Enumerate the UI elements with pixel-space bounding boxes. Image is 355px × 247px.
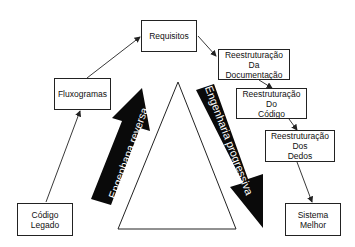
node-sistema-melhor: Sistema Melhor bbox=[285, 203, 341, 236]
node-reest-codigo-line3: Código bbox=[258, 109, 285, 119]
node-codigo-legado-line1: Código bbox=[32, 210, 59, 220]
node-codigo-legado: Código Legado bbox=[17, 203, 73, 236]
node-reest-codigo-line1: Reestruturação bbox=[242, 89, 300, 99]
node-reest-dados-line1: Reestruturação bbox=[271, 131, 329, 141]
node-sistema-melhor-line1: Sistema bbox=[298, 210, 329, 220]
node-reest-doc-line3: Documentação bbox=[225, 70, 282, 80]
edge-codigo-to-dados bbox=[289, 119, 297, 130]
node-sistema-melhor-line2: Melhor bbox=[300, 220, 326, 230]
node-reestruturacao-dados: Reestruturação Dos Dedos bbox=[265, 130, 335, 162]
node-reest-dados-line3: Dedos bbox=[288, 151, 313, 161]
node-reest-dados-line2: Dos bbox=[292, 141, 307, 151]
node-reestruturacao-documentacao: Reestruturação Da Documentação bbox=[218, 49, 290, 80]
node-reest-doc-line2: Da bbox=[249, 60, 260, 70]
node-reestruturacao-codigo: Reestruturação Do Código bbox=[236, 88, 307, 119]
edge-doc-to-codigo bbox=[259, 80, 272, 88]
node-reest-codigo-line2: Do bbox=[266, 99, 277, 109]
node-fluxogramas: Fluxogramas bbox=[54, 78, 111, 110]
edge-dados-to-sistema bbox=[297, 162, 312, 202]
edge-requisitos-to-doc bbox=[198, 36, 216, 56]
edge-legado-to-fluxogramas bbox=[46, 111, 80, 202]
edge-fluxogramas-to-requisitos bbox=[87, 37, 140, 78]
node-requisitos-label: Requisitos bbox=[149, 31, 189, 41]
node-requisitos: Requisitos bbox=[141, 20, 197, 52]
node-fluxogramas-label: Fluxogramas bbox=[58, 89, 107, 99]
node-reest-doc-line1: Reestruturação bbox=[225, 50, 283, 60]
node-codigo-legado-line2: Legado bbox=[31, 220, 59, 230]
